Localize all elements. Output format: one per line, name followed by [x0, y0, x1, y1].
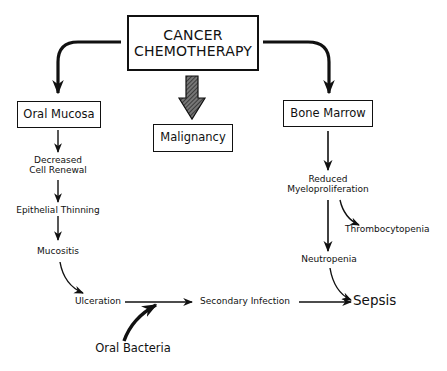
- arrow-oral-bacteria: [124, 305, 156, 341]
- reduced-line1: Reduced: [280, 174, 376, 184]
- decreased-line1: Decreased: [18, 155, 98, 165]
- arrow-chemo-to-oral-mucosa: [58, 42, 121, 93]
- root-line1: CANCER: [163, 27, 222, 43]
- hatched-arrow-to-malignancy: [179, 76, 205, 119]
- secondary-infection-label: Secondary Infection: [194, 296, 296, 306]
- arrow-reduced-to-thrombocytopenia: [340, 200, 359, 225]
- reduced-line2: Myeloproliferation: [280, 184, 376, 194]
- decreased-cell-renewal-label: Decreased Cell Renewal: [18, 155, 98, 176]
- decreased-line2: Cell Renewal: [18, 165, 98, 175]
- malignancy-box: Malignancy: [153, 124, 233, 152]
- oral-bacteria-label: Oral Bacteria: [92, 342, 174, 355]
- arrow-neutropenia-to-sepsis: [330, 268, 351, 300]
- arrow-mucositis-to-ulceration: [60, 262, 83, 293]
- mucositis-label: Mucositis: [28, 246, 88, 256]
- thrombocytopenia-label: Thrombocytopenia: [345, 224, 437, 234]
- bone-marrow-box: Bone Marrow: [283, 100, 373, 127]
- oral-mucosa-box: Oral Mucosa: [17, 101, 101, 128]
- neutropenia-label: Neutropenia: [296, 254, 362, 264]
- sepsis-label: Sepsis: [353, 293, 393, 309]
- oral-mucosa-label: Oral Mucosa: [23, 108, 94, 121]
- cancer-chemotherapy-box: CANCER CHEMOTHERAPY: [127, 15, 259, 71]
- arrow-chemo-to-bone-marrow: [263, 42, 329, 93]
- malignancy-label: Malignancy: [160, 131, 225, 144]
- bone-marrow-label: Bone Marrow: [290, 107, 365, 120]
- reduced-myeloproliferation-label: Reduced Myeloproliferation: [280, 174, 376, 195]
- epithelial-thinning-label: Epithelial Thinning: [6, 205, 110, 215]
- root-line2: CHEMOTHERAPY: [134, 43, 252, 59]
- ulceration-label: Ulceration: [70, 296, 126, 306]
